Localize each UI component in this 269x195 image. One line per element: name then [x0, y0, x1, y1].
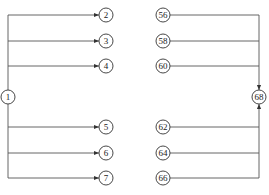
edges — [8, 15, 259, 178]
nodes: 168234567565860626466 — [1, 8, 266, 185]
node-66: 66 — [156, 171, 170, 185]
figure-caption — [0, 186, 269, 195]
node-2: 2 — [99, 8, 113, 22]
node-64: 64 — [156, 146, 170, 160]
node-label: 60 — [159, 61, 169, 71]
node-6: 6 — [99, 146, 113, 160]
node-62: 62 — [156, 120, 170, 134]
node-label: 66 — [159, 173, 169, 183]
node-label: 7 — [104, 173, 109, 183]
node-label: 56 — [159, 10, 169, 20]
node-label: 64 — [159, 148, 169, 158]
node-60: 60 — [156, 59, 170, 73]
node-label: 1 — [6, 92, 11, 102]
node-68: 68 — [252, 90, 266, 104]
node-4: 4 — [99, 59, 113, 73]
node-label: 3 — [104, 36, 109, 46]
node-1: 1 — [1, 90, 15, 104]
node-label: 58 — [159, 36, 169, 46]
node-5: 5 — [99, 120, 113, 134]
node-label: 4 — [104, 61, 109, 71]
node-label: 5 — [104, 122, 109, 132]
node-58: 58 — [156, 34, 170, 48]
network-diagram: 168234567565860626466 — [0, 0, 269, 195]
node-3: 3 — [99, 34, 113, 48]
node-56: 56 — [156, 8, 170, 22]
node-7: 7 — [99, 171, 113, 185]
node-label: 62 — [159, 122, 168, 132]
node-label: 68 — [255, 92, 265, 102]
node-label: 2 — [104, 10, 109, 20]
node-label: 6 — [104, 148, 109, 158]
